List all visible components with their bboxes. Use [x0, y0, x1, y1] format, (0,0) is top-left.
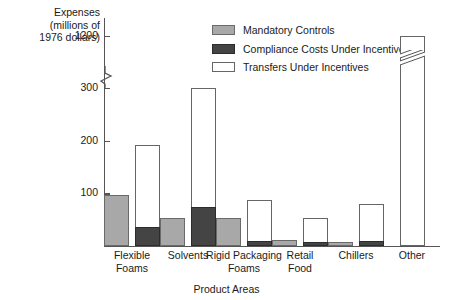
segment-compliance	[359, 241, 384, 246]
x-category-line: Other	[367, 249, 453, 262]
bar-mandatory-1	[160, 218, 185, 246]
y-tick-label-1200: 1200	[46, 29, 98, 41]
y-axis-title-line-1: Expenses	[12, 6, 100, 19]
segment-transfers	[400, 36, 425, 246]
segment-compliance	[191, 207, 216, 246]
segment-compliance	[135, 227, 160, 246]
bar-mandatory-3	[272, 240, 297, 246]
y-tick-label-100: 100	[46, 186, 98, 198]
segment-transfers	[359, 204, 384, 246]
segment-mandatory	[160, 218, 185, 246]
bar-stacked-4	[359, 204, 384, 246]
bar-chart: Expenses (millions of 1976 dollars) Mand…	[0, 0, 453, 300]
bar-mandatory-2	[216, 218, 241, 246]
x-category-line: Food	[255, 262, 345, 275]
bar-stacked-1	[191, 88, 216, 246]
segment-mandatory	[328, 242, 353, 246]
segment-mandatory	[272, 240, 297, 246]
x-axis-title: Product Areas	[0, 283, 453, 295]
segment-transfers	[247, 200, 272, 246]
bar-stacked-0	[135, 145, 160, 246]
bar-mandatory-0	[104, 195, 129, 246]
segment-compliance	[303, 242, 328, 246]
x-category-line: Foams	[87, 262, 177, 275]
bar-break-icon	[400, 50, 425, 66]
segment-mandatory	[216, 218, 241, 246]
bar-stacked-2	[247, 200, 272, 246]
segment-mandatory	[104, 195, 129, 246]
bar-stacked-3	[303, 218, 328, 246]
plot-area	[104, 18, 440, 246]
x-category-5: Other	[367, 249, 453, 262]
y-tick-label-200: 200	[46, 134, 98, 146]
y-tick-label-300: 300	[46, 81, 98, 93]
bar-stacked-5	[400, 36, 425, 246]
bar-mandatory-4	[328, 242, 353, 246]
segment-compliance	[247, 241, 272, 246]
